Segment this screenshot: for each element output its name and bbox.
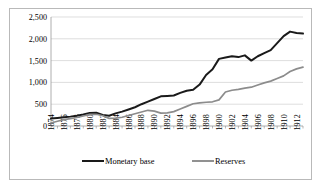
x-axis-tick-label: 1910 [280, 114, 289, 130]
x-axis-tick-label: 1888 [137, 114, 146, 130]
x-axis-tick-label: 1884 [112, 114, 121, 130]
x-axis-tick-label: 1896 [189, 114, 198, 130]
x-axis-tick-label: 1902 [228, 114, 237, 130]
y-axis-tick-label: 1,500 [29, 57, 47, 66]
legend-label-monetary-base: Monetary base [105, 157, 155, 166]
x-axis-tick-label: 1912 [293, 114, 302, 130]
x-axis-tick-label: 1894 [176, 114, 185, 130]
x-axis-tick-label: 1904 [241, 114, 250, 130]
y-axis-tick-label: 2,000 [29, 35, 47, 44]
legend-label-reserves: Reserves [215, 157, 245, 166]
y-axis-tick-label: 1,000 [29, 78, 47, 87]
data-series-layer [51, 32, 303, 123]
x-axis-tick-label: 1906 [254, 114, 263, 130]
series-line-monetary-base [51, 32, 303, 119]
x-axis-tick-label: 1880 [86, 114, 95, 130]
x-axis-labels: 1874187618781880188218841886188818901892… [47, 114, 302, 130]
chart-canvas: 05001,0001,5002,0002,500 187418761878188… [10, 9, 311, 179]
x-axis-tick-label: 1892 [163, 114, 172, 130]
x-axis-tick-label: 1890 [150, 114, 159, 130]
y-axis-labels: 05001,0001,5002,0002,500 [29, 13, 47, 131]
chart-figure: 05001,0001,5002,0002,500 187418761878188… [9, 8, 312, 180]
chart-legend: Monetary baseReserves [82, 157, 245, 166]
y-axis-tick-label: 2,500 [29, 13, 47, 22]
y-axis-tick-label: 500 [35, 100, 47, 109]
gridline-group [51, 17, 303, 104]
x-axis-tick-label: 1908 [267, 114, 276, 130]
x-axis-tick-label: 1900 [215, 114, 224, 130]
x-axis-tick-label: 1898 [202, 114, 211, 130]
